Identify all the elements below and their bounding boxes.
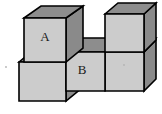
top-left-cube xyxy=(24,6,83,62)
bottom-right-cube-front-face xyxy=(105,52,144,91)
bottom-left-cube-front-face xyxy=(19,62,66,101)
isometric-cube-diagram: A B xyxy=(0,0,162,114)
speck-dot-1 xyxy=(123,64,125,66)
cube-stack-figure: A B xyxy=(0,0,162,114)
cube-label-a: A xyxy=(40,29,50,44)
top-right-cube xyxy=(105,3,156,52)
top-right-cube-front-face xyxy=(105,14,144,52)
cube-label-b: B xyxy=(78,62,87,77)
speck-dot-2 xyxy=(5,66,7,68)
